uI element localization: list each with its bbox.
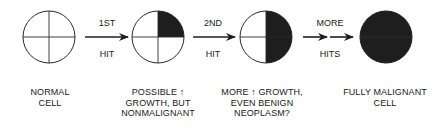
transition-3-top-label: MORE xyxy=(310,18,350,28)
label-line: NONMALIGNANT xyxy=(113,108,203,119)
transition-1-bottom-label: HIT xyxy=(92,49,122,59)
label-line: CELL xyxy=(335,98,435,109)
possible-growth-circle xyxy=(132,11,184,63)
transition-1-top-label: 1ST xyxy=(92,18,122,28)
possible-growth-label: POSSIBLE ↑ GROWTH, BUT NONMALIGNANT xyxy=(113,87,203,119)
label-line: MORE ↑ GROWTH, xyxy=(212,87,312,98)
transition-2-bottom-label: HIT xyxy=(198,49,228,59)
label-line: NORMAL xyxy=(10,87,90,98)
label-line: POSSIBLE ↑ xyxy=(113,87,203,98)
label-line: NEOPLASM? xyxy=(212,108,312,119)
label-line: EVEN BENIGN xyxy=(212,98,312,109)
benign-neoplasm-circle xyxy=(240,11,292,63)
label-line: CELL xyxy=(10,98,90,109)
transition-3-bottom-label: HITS xyxy=(310,49,350,59)
normal-cell-circle xyxy=(23,11,75,63)
label-line: GROWTH, BUT xyxy=(113,98,203,109)
malignant-cell-circle xyxy=(360,11,412,63)
transition-2-top-label: 2ND xyxy=(198,18,228,28)
malignant-cell-label: FULLY MALIGNANT CELL xyxy=(335,87,435,108)
benign-neoplasm-label: MORE ↑ GROWTH, EVEN BENIGN NEOPLASM? xyxy=(212,87,312,119)
normal-cell-label: NORMAL CELL xyxy=(10,87,90,108)
label-line: FULLY MALIGNANT xyxy=(335,87,435,98)
